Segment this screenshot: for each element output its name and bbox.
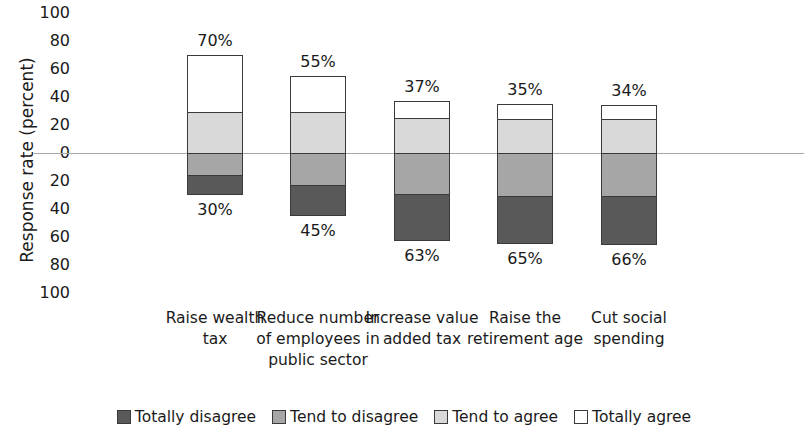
category-label-line: spending — [567, 329, 691, 350]
segment-tend-to-disagree[interactable] — [497, 153, 553, 196]
bar-group[interactable]: 34%66% — [601, 0, 657, 300]
legend-label: Tend to agree — [452, 408, 558, 426]
bar-group[interactable]: 37%63% — [394, 0, 450, 300]
y-axis-tick-label: 60 — [10, 61, 70, 77]
segment-tend-to-agree[interactable] — [187, 112, 243, 153]
agree-total-label: 37% — [362, 79, 482, 95]
y-axis-tick-label: 100 — [10, 285, 70, 301]
segment-totally-disagree[interactable] — [187, 175, 243, 195]
segment-tend-to-agree[interactable] — [290, 112, 346, 153]
x-axis-category-labels: Raise wealthtaxReduce numberof employees… — [78, 308, 802, 388]
disagree-total-label: 45% — [258, 223, 378, 239]
chart-figure: Response rate (percent) 1008060402002040… — [0, 0, 808, 439]
segment-totally-agree[interactable] — [290, 76, 346, 112]
legend-swatch-icon — [574, 410, 588, 424]
y-axis-tick-label: 60 — [10, 229, 70, 245]
segment-tend-to-disagree[interactable] — [290, 153, 346, 185]
category-label-line: Cut social — [567, 308, 691, 329]
y-axis-tick-label: 40 — [10, 201, 70, 217]
segment-totally-disagree[interactable] — [394, 194, 450, 242]
segment-totally-agree[interactable] — [187, 55, 243, 112]
segment-totally-disagree[interactable] — [601, 196, 657, 245]
legend-label: Totally disagree — [135, 408, 256, 426]
agree-total-label: 35% — [465, 82, 585, 98]
y-axis-tick-label: 80 — [10, 257, 70, 273]
segment-totally-disagree[interactable] — [290, 185, 346, 216]
legend-label: Tend to disagree — [290, 408, 418, 426]
bar-group[interactable]: 70%30% — [187, 0, 243, 300]
disagree-total-label: 30% — [155, 202, 275, 218]
legend-item[interactable]: Tend to disagree — [272, 408, 418, 426]
plot-area: 10080604020020406080100 70%30%55%45%37%6… — [78, 0, 802, 300]
disagree-total-label: 63% — [362, 248, 482, 264]
y-axis-tick-label: 20 — [10, 173, 70, 189]
disagree-total-label: 65% — [465, 251, 585, 267]
legend-swatch-icon — [434, 410, 448, 424]
bar-group[interactable]: 55%45% — [290, 0, 346, 300]
y-axis-tick-label: 20 — [10, 117, 70, 133]
y-axis-tick-label: 40 — [10, 89, 70, 105]
legend-item[interactable]: Totally agree — [574, 408, 691, 426]
disagree-total-label: 66% — [569, 252, 689, 268]
legend-item[interactable]: Tend to agree — [434, 408, 558, 426]
bar-group[interactable]: 35%65% — [497, 0, 553, 300]
segment-totally-agree[interactable] — [394, 101, 450, 118]
legend-swatch-icon — [117, 410, 131, 424]
legend-label: Totally agree — [592, 408, 691, 426]
y-axis-tick-label: 100 — [10, 5, 70, 21]
segment-tend-to-agree[interactable] — [601, 119, 657, 153]
agree-total-label: 34% — [569, 83, 689, 99]
segment-tend-to-agree[interactable] — [394, 118, 450, 153]
segment-totally-agree[interactable] — [497, 104, 553, 119]
segment-totally-disagree[interactable] — [497, 196, 553, 244]
x-axis-category-label: Cut socialspending — [567, 308, 691, 350]
legend-swatch-icon — [272, 410, 286, 424]
segment-tend-to-disagree[interactable] — [394, 153, 450, 194]
segment-tend-to-disagree[interactable] — [187, 153, 243, 175]
legend-item[interactable]: Totally disagree — [117, 408, 256, 426]
agree-total-label: 55% — [258, 54, 378, 70]
category-label-line: public sector — [256, 350, 380, 371]
segment-tend-to-agree[interactable] — [497, 119, 553, 153]
segment-totally-agree[interactable] — [601, 105, 657, 119]
agree-total-label: 70% — [155, 33, 275, 49]
chart-legend: Totally disagreeTend to disagreeTend to … — [0, 408, 808, 426]
y-axis-tick-label: 80 — [10, 33, 70, 49]
segment-tend-to-disagree[interactable] — [601, 153, 657, 196]
